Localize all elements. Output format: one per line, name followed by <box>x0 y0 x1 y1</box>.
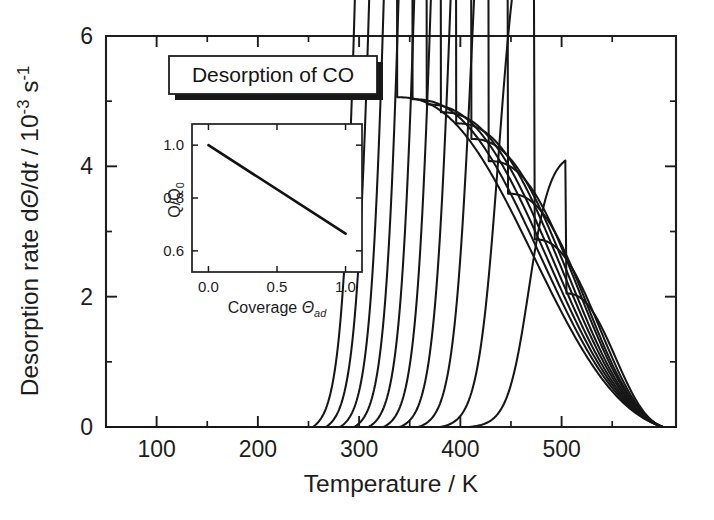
y-axis-title-exp1: -3 <box>14 100 33 115</box>
x-axis-title: Temperature / K <box>304 470 479 497</box>
x-tick-label: 500 <box>542 436 580 462</box>
inset-frame <box>192 124 362 272</box>
title-box: Desorption of CO <box>169 56 383 100</box>
inset-x-tick-label: 0.5 <box>267 278 288 295</box>
inset-y-title-q: Q <box>166 205 183 217</box>
tpd-figure: 100200300400500 0246 Desorption of CO 0.… <box>0 0 714 520</box>
x-axis-title-unit: K <box>462 470 479 497</box>
x-tick-label: 200 <box>239 436 277 462</box>
x-axis-title-prefix: Temperature / <box>304 470 462 497</box>
inset-y-title-sub: 0 <box>174 182 186 188</box>
inset-plot: 0.00.51.0 0.60.81.0 Q/Q0 Coverage Θad <box>163 124 362 319</box>
title-box-label: Desorption of CO <box>192 63 354 86</box>
inset-x-axis-title: Coverage Θad <box>228 299 327 319</box>
x-tick-label: 400 <box>441 436 479 462</box>
inset-x-tick-label: 0.0 <box>198 278 219 295</box>
x-axis-tick-labels: 100200300400500 <box>137 436 580 462</box>
inset-y-tick-label: 1.0 <box>163 136 184 153</box>
inset-x-tick-label: 1.0 <box>335 278 356 295</box>
y-axis-title-part3: / 10 <box>16 114 43 162</box>
y-axis-title-part4: s <box>16 81 43 100</box>
inset-y-title-q2: Q <box>166 188 183 200</box>
y-axis-title-part1: Desorption rate d <box>16 208 43 396</box>
y-tick-label: 4 <box>80 153 93 179</box>
x-tick-label: 300 <box>340 436 378 462</box>
y-axis-title-exp2: -1 <box>14 66 33 81</box>
y-axis-title: Desorption rate dΘ/dt / 10-3 s-1 <box>14 66 43 397</box>
y-axis-title-theta: Θ <box>16 189 43 208</box>
y-tick-label: 6 <box>80 23 93 49</box>
inset-x-title-prefix: Coverage <box>228 299 302 316</box>
inset-x-title-theta: Θ <box>302 299 314 316</box>
inset-x-tick-labels: 0.00.51.0 <box>198 278 356 295</box>
inset-x-title-sub: ad <box>314 307 327 319</box>
y-tick-label: 0 <box>80 414 93 440</box>
x-tick-label: 100 <box>137 436 175 462</box>
y-axis-title-part2: /d <box>16 169 43 189</box>
y-tick-label: 2 <box>80 284 93 310</box>
inset-y-tick-label: 0.6 <box>163 242 184 259</box>
y-axis-tick-labels: 0246 <box>80 23 93 440</box>
